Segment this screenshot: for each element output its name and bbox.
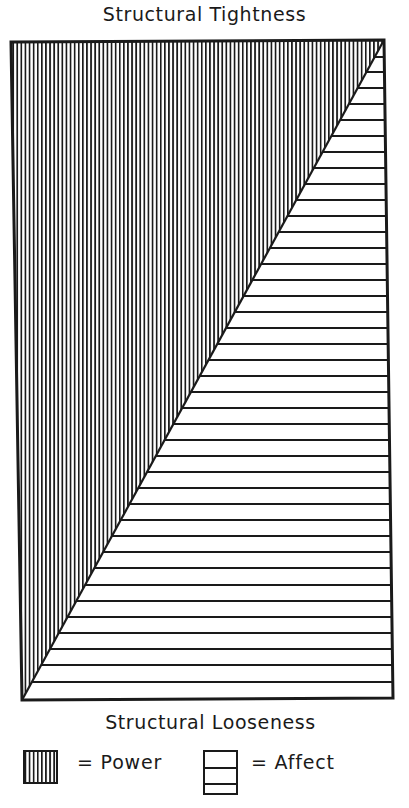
legend-label-power: = Power <box>77 751 162 773</box>
legend-label-affect: = Affect <box>251 751 335 773</box>
power-affect-diagram <box>0 0 409 808</box>
bottom-axis-label: Structural Looseness <box>6 711 409 733</box>
power-legend-swatch-icon <box>24 751 57 783</box>
affect-legend-swatch-icon <box>204 751 237 794</box>
